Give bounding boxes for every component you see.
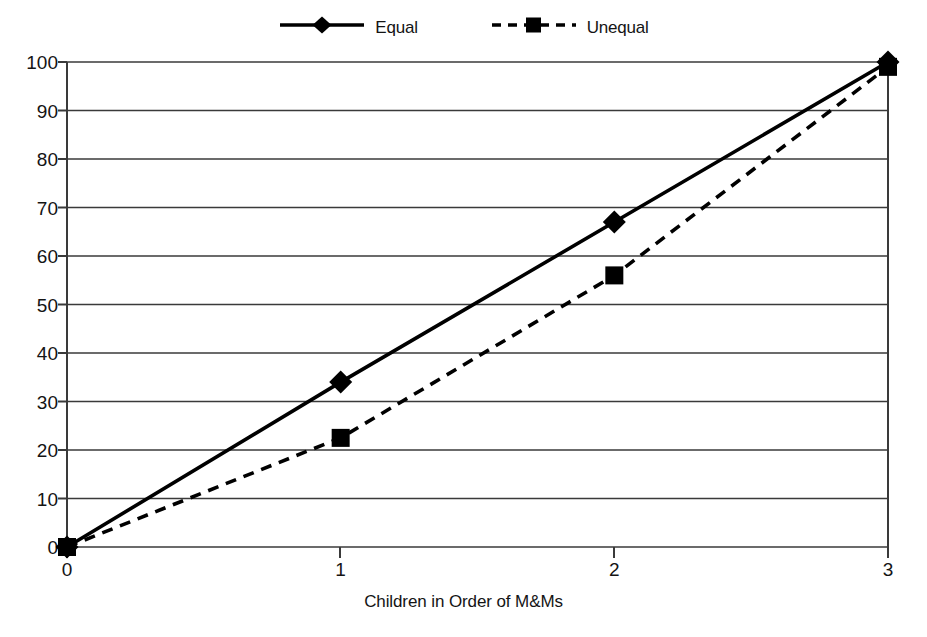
series-unequal [58, 58, 897, 556]
data-point-marker [603, 211, 626, 234]
plot-area [67, 62, 888, 547]
x-tick-0: 0 [37, 560, 97, 579]
series-unequal-line [67, 67, 888, 547]
y-tick-marks [58, 62, 67, 547]
x-tick-2: 2 [584, 560, 644, 579]
data-point-marker [332, 429, 350, 447]
data-point-marker [605, 266, 623, 284]
x-tick-1: 1 [311, 560, 371, 579]
x-axis-title: Children in Order of M&Ms [0, 592, 927, 612]
series-unequal-markers [58, 58, 897, 556]
chart-figure: Equal Unequal 0 10 20 30 40 50 60 70 80 … [0, 0, 927, 637]
x-tick-3: 3 [858, 560, 918, 579]
x-tick-marks [67, 547, 888, 558]
plot-svg [0, 0, 927, 637]
data-point-marker [329, 371, 352, 394]
x-axis-tick-labels: 0 1 2 3 [67, 560, 888, 586]
